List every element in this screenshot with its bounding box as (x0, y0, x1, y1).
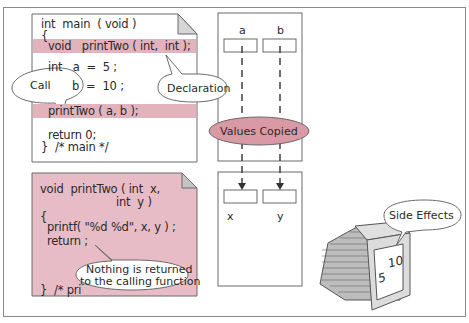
declaration-callout: Declaration (167, 82, 230, 95)
callee-line-4: printf( "%d %d", x, y ) ; (40, 222, 176, 234)
callee-line-1: void printTwo ( int x, (40, 184, 160, 196)
values-copied-label: Values Copied (220, 125, 298, 138)
main-line-1: int main ( void ) (41, 19, 136, 31)
var-b-label: b (277, 24, 284, 37)
var-y-label: y (277, 210, 284, 223)
callee-line-6: } /* pri (40, 285, 81, 297)
main-line-3: void printTwo ( int, int ); (41, 41, 191, 53)
callee-line-5: return ; (40, 236, 88, 248)
callee-line-2: int y ) (40, 197, 152, 209)
main-line-8: } /* main */ (41, 142, 108, 154)
main-line-4: int a = 5 ; (41, 62, 117, 74)
side-effects-callout: Side Effects (389, 209, 454, 222)
main-line-5: b = 10 ; (41, 81, 124, 93)
nothing-returned-line-2: to the calling function (80, 275, 200, 288)
call-callout: Call (30, 79, 51, 92)
var-a-label: a (239, 24, 246, 37)
main-line-6: printTwo ( a, b ); (41, 106, 138, 118)
var-x-label: x (227, 210, 234, 223)
